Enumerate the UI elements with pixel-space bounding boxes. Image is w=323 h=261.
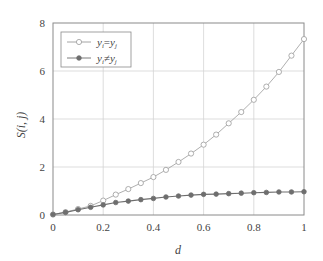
data-point bbox=[302, 189, 307, 194]
data-point bbox=[239, 109, 244, 114]
data-point bbox=[63, 210, 68, 215]
data-point bbox=[201, 142, 206, 147]
data-point bbox=[301, 36, 306, 41]
data-point bbox=[277, 190, 282, 195]
line-chart: 00.20.40.60.81 02468 d S(i, j) yi=yjyi≠y… bbox=[0, 0, 323, 261]
data-point bbox=[201, 192, 206, 197]
legend-box bbox=[61, 32, 131, 67]
data-point bbox=[151, 196, 156, 201]
data-point bbox=[51, 212, 56, 217]
data-point bbox=[113, 192, 118, 197]
data-point bbox=[251, 97, 256, 102]
y-tick-label: 2 bbox=[40, 161, 46, 173]
data-point bbox=[176, 159, 181, 164]
data-point bbox=[264, 84, 269, 89]
y-axis-ticks: 02468 bbox=[40, 17, 46, 221]
data-point bbox=[189, 193, 194, 198]
data-point bbox=[163, 167, 168, 172]
y-tick-label: 0 bbox=[40, 209, 46, 221]
x-tick-label: 0 bbox=[50, 221, 56, 233]
data-point bbox=[138, 180, 143, 185]
y-tick-label: 8 bbox=[40, 17, 46, 29]
x-axis-label: d bbox=[175, 243, 182, 257]
x-tick-label: 0.8 bbox=[247, 221, 261, 233]
data-point bbox=[226, 191, 231, 196]
data-point bbox=[113, 200, 118, 205]
legend-marker bbox=[76, 39, 81, 44]
legend: yi=yjyi≠yj bbox=[61, 32, 131, 67]
data-point bbox=[101, 203, 106, 208]
data-point bbox=[264, 190, 269, 195]
data-point bbox=[76, 207, 81, 212]
y-axis-label: S(i, j) bbox=[14, 112, 28, 139]
y-tick-label: 4 bbox=[40, 113, 46, 125]
data-point bbox=[88, 205, 93, 210]
data-point bbox=[126, 199, 131, 204]
x-tick-label: 0.6 bbox=[197, 221, 211, 233]
data-point bbox=[214, 132, 219, 137]
x-tick-label: 0.4 bbox=[147, 221, 161, 233]
data-point bbox=[164, 195, 169, 200]
data-point bbox=[151, 174, 156, 179]
data-point bbox=[289, 190, 294, 195]
y-tick-label: 6 bbox=[40, 65, 46, 77]
data-point bbox=[214, 192, 219, 197]
data-point bbox=[188, 151, 193, 156]
data-point bbox=[226, 121, 231, 126]
data-point bbox=[252, 190, 257, 195]
x-tick-label: 0.2 bbox=[96, 221, 110, 233]
series-not-equal bbox=[51, 189, 307, 216]
x-axis-ticks: 00.20.40.60.81 bbox=[50, 221, 307, 233]
data-point bbox=[176, 194, 181, 199]
legend-label: yi≠yj bbox=[96, 52, 117, 66]
x-tick-label: 1 bbox=[301, 221, 307, 233]
data-point bbox=[139, 197, 144, 202]
legend-marker bbox=[77, 56, 82, 61]
data-point bbox=[239, 191, 244, 196]
data-point bbox=[276, 69, 281, 74]
data-point bbox=[126, 186, 131, 191]
data-point bbox=[289, 53, 294, 58]
legend-label: yi=yj bbox=[96, 36, 117, 50]
